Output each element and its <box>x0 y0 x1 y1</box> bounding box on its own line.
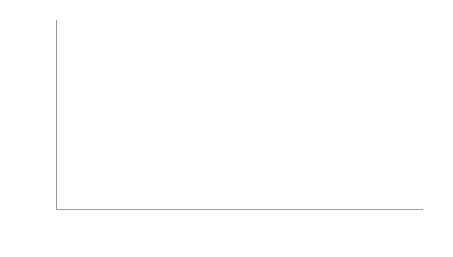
data-point-markers <box>57 20 424 210</box>
y-axis-tick-labels <box>0 20 52 210</box>
chart-container <box>0 0 453 257</box>
x-axis-tick-labels <box>56 214 423 228</box>
plot-area <box>56 20 423 210</box>
